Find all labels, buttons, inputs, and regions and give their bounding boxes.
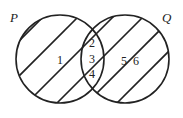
region-label-2: 2 (89, 36, 95, 50)
region-label-6: 6 (133, 54, 139, 68)
set-q-label: Q (162, 10, 172, 25)
set-p-label: P (9, 10, 18, 25)
region-label-3: 3 (89, 52, 95, 66)
region-label-4: 4 (89, 67, 95, 81)
region-label-5: 5 (121, 54, 127, 68)
venn-diagram: P Q 1 2 3 4 5 6 (0, 0, 183, 118)
region-label-1: 1 (57, 53, 63, 67)
